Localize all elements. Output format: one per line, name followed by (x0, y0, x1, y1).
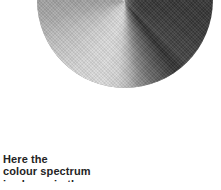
disc-center-highlight (37, 0, 213, 88)
colour-spectrum-disc (37, 0, 213, 88)
caption-line-2: colour spectrum (3, 165, 111, 177)
caption-line-1: Here the (3, 153, 111, 165)
figure-caption: Here the colour spectrum is shown in the (3, 153, 111, 182)
disc-body (37, 0, 213, 88)
caption-line-3: is shown in the (3, 178, 111, 182)
figure-page: Here the colour spectrum is shown in the (0, 0, 221, 190)
